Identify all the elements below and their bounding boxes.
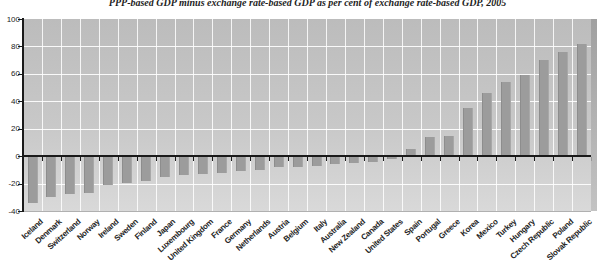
x-axis-tick: [345, 157, 346, 161]
vertical-gridline: [193, 19, 194, 211]
bar-france: [217, 156, 227, 173]
x-axis-tick: [80, 157, 81, 161]
bar-finland: [141, 156, 151, 181]
bar-czech-republic: [539, 60, 549, 156]
vertical-gridline: [250, 19, 251, 211]
vertical-gridline: [477, 19, 478, 211]
vertical-gridline: [345, 19, 346, 211]
x-axis-tick: [572, 157, 573, 161]
y-tick-label: 20: [0, 124, 20, 133]
vertical-gridline: [534, 19, 535, 211]
x-axis-tick: [23, 157, 24, 161]
x-axis-tick: [137, 157, 138, 161]
x-axis-tick: [42, 157, 43, 161]
bar-denmark: [46, 156, 56, 197]
y-tick-label: 0: [0, 152, 20, 161]
bar-mexico: [482, 93, 492, 156]
vertical-gridline: [383, 19, 384, 211]
y-tick-label: -40: [0, 207, 20, 216]
vertical-gridline: [118, 19, 119, 211]
vertical-gridline: [572, 19, 573, 211]
bar-switzerland: [65, 156, 75, 194]
vertical-gridline: [137, 19, 138, 211]
bar-italy: [312, 156, 322, 166]
x-axis-tick: [421, 157, 422, 161]
chart-figure: PPP-based GDP minus exchange rate-based …: [0, 0, 598, 266]
x-axis-tick: [553, 157, 554, 161]
x-axis-tick: [496, 157, 497, 161]
bar-australia: [330, 156, 340, 164]
y-tick-label: 80: [0, 42, 20, 51]
x-axis-tick: [193, 157, 194, 161]
x-axis-tick: [534, 157, 535, 161]
vertical-gridline: [459, 19, 460, 211]
bar-greece: [444, 136, 454, 157]
bar-norway: [84, 156, 94, 193]
bar-hungary: [520, 75, 530, 156]
y-tick-label: 60: [0, 69, 20, 78]
vertical-gridline: [515, 19, 516, 211]
vertical-gridline: [61, 19, 62, 211]
x-axis-tick: [156, 157, 157, 161]
x-axis-tick: [99, 157, 100, 161]
page-edge-shadow: [591, 19, 597, 211]
x-axis-tick: [477, 157, 478, 161]
vertical-gridline: [326, 19, 327, 211]
chart-title: PPP-based GDP minus exchange rate-based …: [20, 0, 595, 8]
bar-slovak-republic: [577, 44, 587, 157]
vertical-gridline: [231, 19, 232, 211]
x-axis-tick: [288, 157, 289, 161]
bar-poland: [558, 52, 568, 156]
vertical-gridline: [307, 19, 308, 211]
vertical-gridline: [364, 19, 365, 211]
horizontal-gridline: [23, 46, 591, 47]
x-axis-tick: [326, 157, 327, 161]
bar-austria: [274, 156, 284, 167]
vertical-gridline: [269, 19, 270, 211]
vertical-gridline: [42, 19, 43, 211]
x-axis-tick: [269, 157, 270, 161]
x-axis-tick: [402, 157, 403, 161]
vertical-gridline: [156, 19, 157, 211]
bar-japan: [160, 156, 170, 177]
horizontal-gridline: [23, 74, 591, 75]
x-axis-tick: [383, 157, 384, 161]
vertical-gridline: [212, 19, 213, 211]
vertical-gridline: [553, 19, 554, 211]
y-tick-label: 40: [0, 97, 20, 106]
x-axis-tick: [440, 157, 441, 161]
y-tick-label: -20: [0, 179, 20, 188]
bar-luxembourg: [179, 156, 189, 175]
bar-sweden: [122, 156, 132, 183]
vertical-gridline: [496, 19, 497, 211]
vertical-gridline: [80, 19, 81, 211]
x-axis-tick: [118, 157, 119, 161]
x-axis-tick: [515, 157, 516, 161]
bar-iceland: [28, 156, 38, 203]
bar-turkey: [501, 82, 511, 156]
x-axis-tick: [250, 157, 251, 161]
x-axis-tick: [231, 157, 232, 161]
bar-new-zealand: [349, 156, 359, 163]
vertical-gridline: [440, 19, 441, 211]
y-axis-line: [22, 18, 24, 212]
vertical-gridline: [288, 19, 289, 211]
vertical-gridline: [402, 19, 403, 211]
x-axis-tick: [212, 157, 213, 161]
y-tick-label: 100: [0, 15, 20, 24]
x-axis-tick: [61, 157, 62, 161]
bar-netherlands: [255, 156, 265, 170]
bar-ireland: [103, 156, 113, 185]
x-axis-tick: [307, 157, 308, 161]
bar-germany: [236, 156, 246, 171]
x-axis-tick: [364, 157, 365, 161]
x-axis-tick: [175, 157, 176, 161]
bar-korea: [463, 108, 473, 156]
vertical-gridline: [421, 19, 422, 211]
bar-portugal: [425, 137, 435, 156]
vertical-gridline: [99, 19, 100, 211]
bar-united-kingdom: [198, 156, 208, 174]
bar-belgium: [293, 156, 303, 167]
x-axis-tick: [459, 157, 460, 161]
vertical-gridline: [175, 19, 176, 211]
